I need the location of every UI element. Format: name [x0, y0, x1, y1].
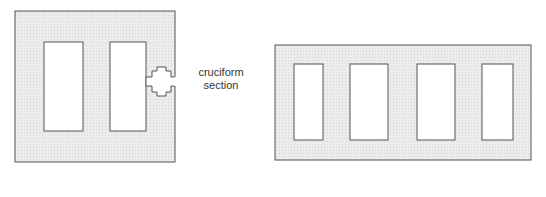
right-panel [275, 45, 531, 160]
right-opening-4 [482, 64, 513, 140]
label-line-1: cruciform [189, 66, 253, 79]
left-opening-2 [110, 42, 146, 131]
right-opening-2 [350, 64, 388, 140]
diagram-canvas [0, 0, 546, 197]
right-opening-3 [417, 64, 455, 140]
right-opening-1 [294, 64, 323, 140]
label-line-2: section [189, 79, 253, 92]
cruciform-section-label: cruciform section [189, 66, 253, 92]
left-opening-1 [44, 42, 83, 131]
left-panel [15, 11, 175, 162]
